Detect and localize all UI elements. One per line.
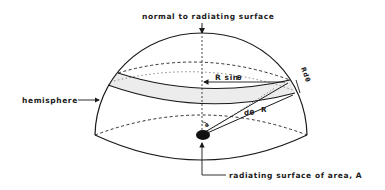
- d-theta-label: dθ: [244, 109, 255, 117]
- r-sin-label: R sin: [215, 73, 239, 82]
- normal-label: normal to radiating surface: [142, 12, 274, 21]
- theta-label: θ: [205, 122, 209, 128]
- upper-latitude-back: [118, 62, 290, 80]
- r-d-theta-label: Rdθ: [299, 66, 312, 84]
- source-label: radiating surface of area, A: [229, 171, 362, 180]
- r-sin-theta-symbol: θ: [237, 74, 242, 82]
- hemisphere-diagram: normal to radiating surface hemisphere r…: [0, 0, 385, 190]
- hemisphere-label: hemisphere: [22, 96, 78, 105]
- r-label: R: [261, 106, 267, 114]
- radiating-surface-blob: [196, 130, 210, 140]
